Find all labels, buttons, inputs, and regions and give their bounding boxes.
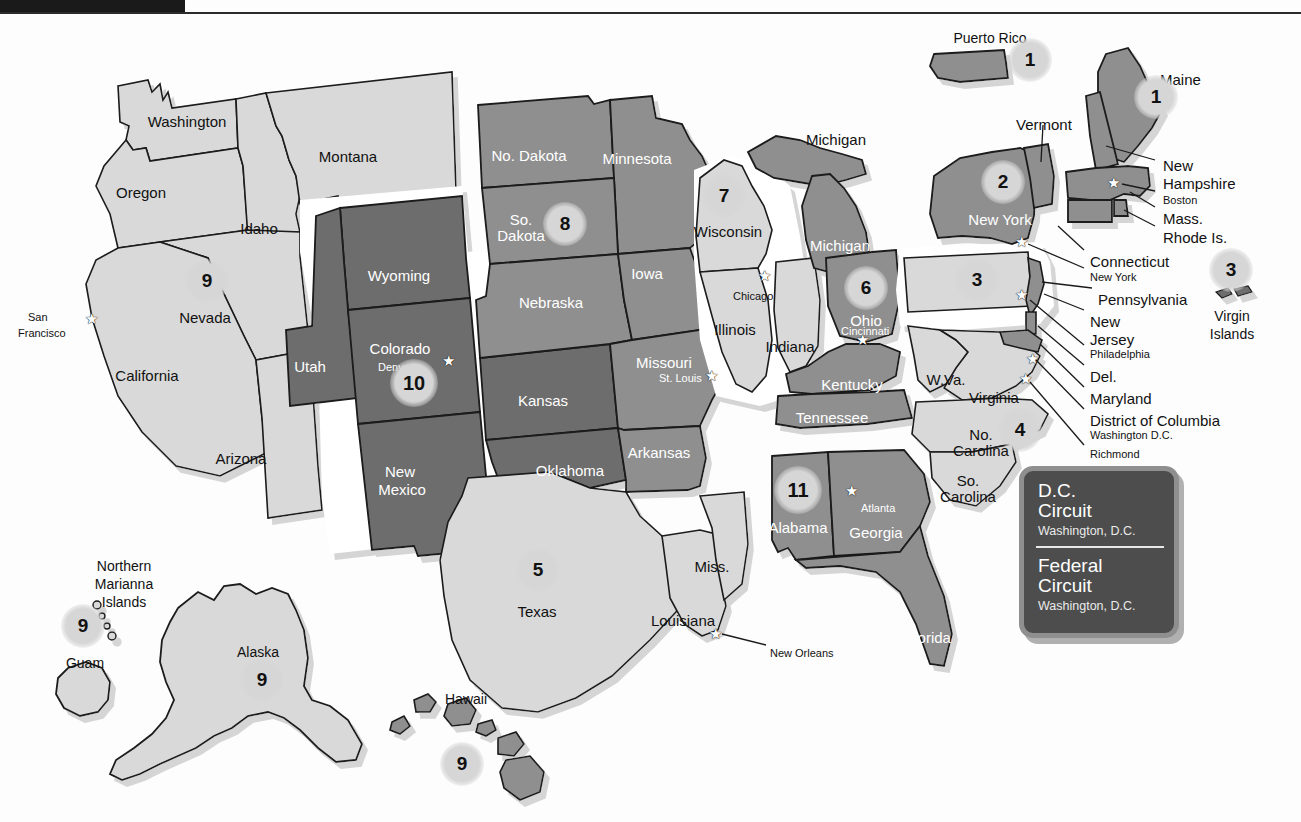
callout-label-mass: Mass. (1163, 210, 1203, 227)
circuit-badge-1-1[interactable]: 1 (1134, 75, 1178, 119)
legend-federal-line1: Federal (1038, 556, 1174, 576)
callout-label-maryland: Maryland (1090, 390, 1152, 407)
city-label-new-orleans: New Orleans (770, 647, 834, 659)
state-label-new-york: New York (968, 211, 1031, 228)
territory-label-hawaii: Hawaii (445, 691, 487, 707)
state-label-so: So. (510, 211, 533, 228)
san-francisco-star: ★ (85, 311, 98, 326)
legend-federal-line2: Circuit (1038, 576, 1174, 596)
state-label-minnesota: Minnesota (602, 150, 671, 167)
legend-federal-city: Washington, D.C. (1038, 599, 1174, 613)
legend-dc-line1: D.C. (1038, 481, 1174, 501)
state-label-wisconsin: Wisconsin (694, 223, 762, 240)
territory-puerto-rico (930, 50, 1008, 82)
state-label-california: California (115, 367, 178, 384)
state-label-no-dakota: No. Dakota (491, 147, 566, 164)
legend-dc-city: Washington, D.C. (1038, 524, 1174, 538)
state-label-arkansas: Arkansas (628, 444, 691, 461)
territory-label-islands: Islands (102, 594, 146, 610)
circuit-badge-8-9[interactable]: 8 (543, 202, 587, 246)
state-label-wyoming: Wyoming (368, 267, 430, 284)
circuit-badge-10-14[interactable]: 10 (390, 359, 438, 407)
circuit-badge-3-4[interactable]: 3 (955, 258, 999, 302)
chicago-star: ★ (758, 268, 771, 283)
circuit-badge-7-8[interactable]: 7 (702, 174, 746, 218)
state-label-mexico: Mexico (378, 481, 426, 498)
leader-connecticut (1058, 226, 1084, 250)
state-label-georgia: Georgia (849, 524, 902, 541)
circuit-badge-11-15[interactable]: 11 (774, 466, 822, 514)
st-louis-star: ★ (705, 368, 718, 383)
state-label-idaho: Idaho (240, 220, 278, 237)
city-label-atlanta: Atlanta (861, 502, 895, 514)
territory-label-virgin: Virgin (1214, 308, 1250, 324)
callout-label-new-york: New York (1090, 271, 1136, 283)
callout-label-hampshire: Hampshire (1163, 175, 1236, 192)
circuit-badge-5-6[interactable]: 5 (516, 548, 560, 592)
leader-dc (1036, 360, 1084, 409)
state-label-michigan: Michigan (810, 237, 870, 254)
state-label-oklahoma: Oklahoma (536, 462, 604, 479)
callout-label-philadelphia: Philadelphia (1090, 348, 1150, 360)
new-york-star: ★ (1015, 234, 1028, 249)
state-label-tennessee: Tennessee (796, 409, 869, 426)
callout-label-washington-d-c: Washington D.C. (1090, 429, 1173, 441)
state-label-miss: Miss. (695, 558, 730, 575)
map-canvas: WashingtonMontanaOregonIdahoNevadaCalifo… (0, 0, 1301, 822)
circuit-badge-4-5[interactable]: 4 (998, 408, 1042, 452)
legend-box[interactable]: D.C. Circuit Washington, D.C. Federal Ci… (1019, 466, 1179, 638)
state-rhode-island (1114, 200, 1128, 216)
state-label-arizona: Arizona (216, 450, 267, 467)
callout-label-connecticut: Connecticut (1090, 253, 1169, 270)
callout-label-jersey: Jersey (1090, 331, 1134, 348)
state-label-alabama: Alabama (768, 519, 827, 536)
territory-label-guam: Guam (66, 655, 104, 671)
boston-star: ★ (1107, 175, 1120, 190)
circuit-badge-3-3[interactable]: 3 (1209, 248, 1253, 292)
circuit-badge-9-13[interactable]: 9 (440, 742, 484, 786)
state-label-montana: Montana (319, 148, 377, 165)
callout-label-rhode-is: Rhode Is. (1163, 229, 1227, 246)
state-label-no: No. (969, 426, 992, 443)
state-label-dakota: Dakota (497, 227, 545, 244)
washington-dc-star: ★ (1026, 351, 1039, 366)
state-label-oregon: Oregon (116, 184, 166, 201)
legend-divider (1036, 546, 1164, 548)
callout-label-new: New (1090, 313, 1120, 330)
state-label-colorado: Colorado (370, 340, 431, 357)
callout-label-pennsylvania: Pennsylvania (1098, 291, 1187, 308)
state-label-carolina: Carolina (940, 488, 996, 505)
state-label-iowa: Iowa (631, 265, 663, 282)
territory-label-islands: Islands (1210, 326, 1254, 342)
state-label-so: So. (957, 472, 980, 489)
state-label-new: New (385, 463, 415, 480)
territory-label-marianna: Marianna (95, 576, 153, 592)
state-label-carolina: Carolina (953, 442, 1009, 459)
legend-dc-line2: Circuit (1038, 501, 1174, 521)
leader-delaware (1038, 326, 1084, 365)
state-texas (440, 472, 690, 712)
callout-label-boston: Boston (1163, 194, 1197, 206)
denver-star: ★ (442, 353, 455, 368)
state-label-kansas: Kansas (518, 392, 568, 409)
state-label-florida: Florida (905, 629, 951, 646)
circuit-badge-6-7[interactable]: 6 (844, 266, 888, 310)
state-label-michigan: Michigan (806, 131, 866, 148)
circuit-badge-9-10[interactable]: 9 (185, 259, 229, 303)
circuit-badge-1-0[interactable]: 1 (1008, 38, 1052, 82)
state-label-missouri: Missouri (636, 354, 692, 371)
richmond-star: ★ (1019, 371, 1032, 386)
state-label-virginia: Virginia (969, 389, 1019, 406)
circuit-badge-9-11[interactable]: 9 (61, 604, 105, 648)
state-wyoming (340, 196, 470, 310)
circuit-5-southcentral (440, 472, 748, 712)
city-label-st-louis: St. Louis (659, 372, 702, 384)
circuit-badge-9-12[interactable]: 9 (240, 658, 284, 702)
state-label-illinois: Illinois (714, 321, 756, 338)
circuit-badge-2-2[interactable]: 2 (981, 160, 1025, 204)
callout-label-vermont: Vermont (1016, 116, 1072, 133)
territory-label-northern: Northern (97, 558, 151, 574)
state-alaska (110, 584, 362, 780)
state-label-washington: Washington (148, 113, 227, 130)
state-new-york (930, 148, 1036, 244)
